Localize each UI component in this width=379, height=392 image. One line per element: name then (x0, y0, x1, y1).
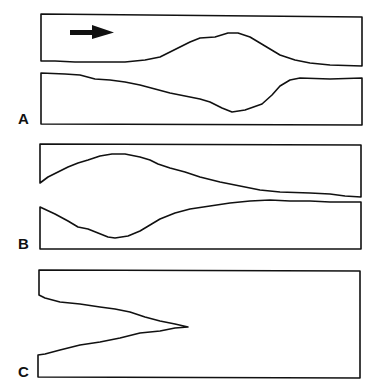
panel-label-c: C (18, 363, 29, 380)
panel-b-lower-wall (40, 200, 361, 249)
arrow-right-icon (70, 25, 114, 39)
panel-b: B (18, 144, 361, 252)
panel-c: C (18, 270, 360, 380)
panel-a-upper-wall (41, 14, 362, 66)
panel-label-b: B (18, 235, 29, 252)
panel-b-upper-wall (40, 144, 361, 197)
panel-c-channel (38, 270, 360, 378)
panel-label-a: A (18, 110, 29, 127)
panel-a: A (18, 14, 362, 127)
panel-a-lower-wall (41, 73, 362, 125)
figure-canvas: A B C (0, 0, 379, 392)
